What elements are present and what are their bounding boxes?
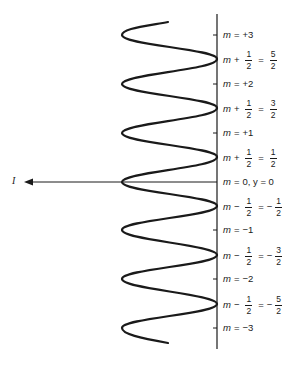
label-m-minus-2: m=−2 (223, 274, 253, 284)
fraction: 12 (245, 50, 252, 70)
fraction: 12 (275, 197, 282, 217)
label-m-zero: m=0, y = 0 (223, 177, 274, 187)
fraction: 32 (270, 99, 277, 119)
label-m-plus-half-3-2: m+ 12 = 32 (223, 99, 280, 119)
label-m-minus-half-5-2: m− 12 =− 52 (223, 295, 285, 315)
label-m-minus-half-1-2: m− 12 =− 12 (223, 197, 285, 217)
fraction: 32 (275, 246, 282, 266)
label-m-plus-half-1-2: m+ 12 = 12 (223, 148, 280, 168)
fraction: 52 (275, 295, 282, 315)
label-m-plus-1: m=+1 (223, 128, 253, 138)
intensity-label: I (12, 175, 15, 186)
label-m-minus-half-3-2: m− 12 =− 32 (223, 246, 285, 266)
fraction: 12 (245, 246, 252, 266)
label-m-plus-2: m=+2 (223, 79, 253, 89)
arrowhead-icon (24, 179, 33, 186)
label-m-plus-3: m=+3 (223, 30, 253, 40)
label-m-plus-half-5-2: m+ 12 = 52 (223, 50, 280, 70)
label-m-minus-1: m=−1 (223, 225, 253, 235)
fraction: 12 (245, 99, 252, 119)
fraction: 12 (245, 148, 252, 168)
fraction: 12 (245, 295, 252, 315)
fraction: 52 (270, 50, 277, 70)
label-m-minus-3: m=−3 (223, 323, 253, 333)
fraction: 12 (245, 197, 252, 217)
fraction: 12 (270, 148, 277, 168)
